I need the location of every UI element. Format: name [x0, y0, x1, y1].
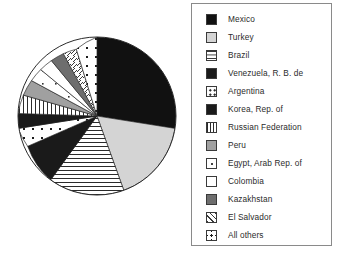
legend-item-colombia[interactable]: Colombia — [192, 172, 331, 190]
legend-item-el-salvador[interactable]: El Salvador — [192, 208, 331, 226]
pie-chart-svg — [11, 26, 183, 198]
legend-item-argentina[interactable]: Argentina — [192, 82, 331, 100]
swatch-dots-square-icon — [206, 86, 217, 97]
pie-slices-group — [18, 37, 176, 195]
swatch-diagonal-hatch-icon — [206, 212, 217, 223]
swatch-dots-square-icon — [206, 230, 217, 241]
legend-label: All others — [228, 230, 264, 241]
legend-label: Argentina — [228, 86, 264, 97]
swatch-solid-white-icon — [206, 176, 217, 187]
legend-label: Egypt, Arab Rep. of — [228, 158, 302, 169]
swatch-solid-black-icon — [206, 14, 217, 25]
legend-item-turkey[interactable]: Turkey — [192, 28, 331, 46]
legend-label: Kazakhstan — [228, 194, 272, 205]
legend-item-brazil[interactable]: Brazil — [192, 46, 331, 64]
legend-label: Brazil — [228, 50, 249, 61]
legend-label: Mexico — [228, 14, 255, 25]
pie-chart-area — [11, 26, 183, 198]
legend-label: Korea, Rep. of — [228, 104, 283, 115]
legend-item-mexico[interactable]: Mexico — [192, 10, 331, 28]
legend-label: Colombia — [228, 176, 264, 187]
legend-item-venezuela[interactable]: Venezuela, R. B. de — [192, 64, 331, 82]
pie-chart-figure: Mexico Turkey Brazil Venezuela, R. B. de… — [0, 0, 338, 254]
swatch-solid-black-icon — [206, 68, 217, 79]
legend-label: Turkey — [228, 32, 254, 43]
swatch-solid-mid-gray-icon — [206, 140, 217, 151]
legend-label: Venezuela, R. B. de — [228, 68, 303, 79]
legend-item-all-others[interactable]: All others — [192, 226, 331, 244]
legend-list: Mexico Turkey Brazil Venezuela, R. B. de… — [192, 4, 331, 245]
legend-item-peru[interactable]: Peru — [192, 136, 331, 154]
swatch-vertical-lines-icon — [206, 122, 217, 133]
swatch-solid-black-icon — [206, 104, 217, 115]
legend-item-kazakhstan[interactable]: Kazakhstan — [192, 190, 331, 208]
legend: Mexico Turkey Brazil Venezuela, R. B. de… — [191, 3, 332, 246]
swatch-sparse-dots-icon — [206, 158, 217, 169]
swatch-solid-light-gray-icon — [206, 32, 217, 43]
legend-label: Russian Federation — [228, 122, 302, 133]
pie-slice-mexico — [97, 37, 176, 128]
legend-label: El Salvador — [228, 212, 272, 223]
legend-item-russian-federation[interactable]: Russian Federation — [192, 118, 331, 136]
legend-item-egypt[interactable]: Egypt, Arab Rep. of — [192, 154, 331, 172]
legend-label: Peru — [228, 140, 246, 151]
swatch-horizontal-lines-icon — [206, 50, 217, 61]
legend-item-korea[interactable]: Korea, Rep. of — [192, 100, 331, 118]
swatch-solid-dark-gray-icon — [206, 194, 217, 205]
